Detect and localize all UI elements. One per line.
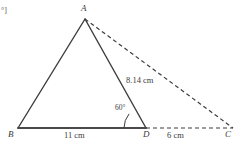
vertex-label-d: D (143, 130, 150, 139)
length-label-dc: 6 cm (167, 131, 184, 140)
vertex-label-b: B (8, 130, 14, 139)
segment-ac (85, 19, 233, 128)
geometry-figure: °] A B D C 11 cm 6 cm 8.14 cm 60° (0, 0, 242, 146)
angle-label-adb: 60° (115, 104, 126, 112)
length-label-ad: 8.14 cm (126, 76, 153, 85)
segment-ab (18, 19, 85, 128)
angle-arc-at-d (124, 114, 129, 128)
vertex-label-a: A (81, 4, 87, 13)
length-label-bd: 11 cm (64, 131, 85, 140)
vertex-label-c: C (225, 130, 231, 139)
corner-text-fragment: °] (1, 7, 7, 15)
geometry-canvas (0, 0, 242, 146)
